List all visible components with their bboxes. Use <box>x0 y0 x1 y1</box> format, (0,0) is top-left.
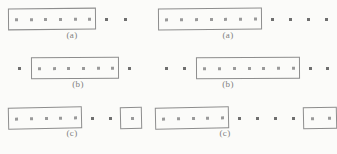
dot-marker <box>52 67 55 70</box>
panel-caption-right-c: (c) <box>195 128 255 138</box>
dot-marker-ungrouped <box>292 117 295 120</box>
dot-marker-ungrouped <box>91 117 94 120</box>
dot-marker-ungrouped <box>307 18 310 21</box>
dot-marker <box>239 17 242 20</box>
panel-caption-right-b: (b) <box>198 79 258 89</box>
dot-marker-ungrouped <box>256 117 259 120</box>
dot-marker <box>292 66 295 69</box>
dot-group-box <box>155 106 229 130</box>
panel-caption-right-a: (a) <box>198 30 258 40</box>
dot-group-box <box>158 8 262 31</box>
panel-caption-left-c: (c) <box>42 128 102 138</box>
dot-group-box <box>303 107 337 130</box>
dot-marker <box>67 67 70 70</box>
dot-marker <box>165 18 168 21</box>
dot-marker <box>262 66 265 69</box>
dot-marker <box>180 18 183 21</box>
dot-marker <box>44 18 47 21</box>
dot-marker-ungrouped <box>325 18 328 21</box>
dot-marker <box>224 17 227 20</box>
dot-marker <box>162 117 165 120</box>
dot-marker <box>96 66 99 69</box>
dot-marker <box>15 18 18 21</box>
dot-marker-ungrouped <box>183 67 186 70</box>
dot-group-box <box>8 8 96 31</box>
panel-caption-left-a: (a) <box>42 30 102 40</box>
panel-caption-left-b: (b) <box>48 79 108 89</box>
dot-group-box <box>8 106 82 130</box>
dot-marker <box>38 67 41 70</box>
dot-marker-ungrouped <box>326 67 329 70</box>
dot-marker <box>206 116 209 119</box>
dot-marker-ungrouped <box>105 18 108 21</box>
dot-marker <box>29 18 32 21</box>
dot-marker <box>221 116 224 119</box>
dot-marker <box>130 116 133 119</box>
dot-marker <box>82 66 85 69</box>
dot-marker <box>218 67 221 70</box>
dot-marker-ungrouped <box>165 67 168 70</box>
dot-marker-ungrouped <box>238 117 241 120</box>
dot-marker-ungrouped <box>271 18 274 21</box>
dot-marker-ungrouped <box>18 67 21 70</box>
dot-marker <box>30 117 33 120</box>
dot-group-box <box>196 57 300 80</box>
dot-marker <box>177 117 180 120</box>
dot-marker <box>311 117 314 120</box>
dot-marker <box>254 17 257 20</box>
dot-marker-ungrouped <box>109 117 112 120</box>
dot-marker <box>233 67 236 70</box>
dot-marker <box>209 17 212 20</box>
dot-marker <box>247 66 250 69</box>
dot-group-box <box>120 107 142 129</box>
dot-marker <box>73 17 76 20</box>
dot-marker-ungrouped <box>289 18 292 21</box>
dot-marker <box>328 116 331 119</box>
dot-group-box <box>31 57 119 80</box>
dot-marker <box>191 116 194 119</box>
dot-marker-ungrouped <box>309 67 312 70</box>
dot-marker <box>277 66 280 69</box>
dot-marker <box>195 18 198 21</box>
dot-marker <box>88 17 91 20</box>
dot-marker <box>15 117 18 120</box>
dot-marker <box>59 17 62 20</box>
dot-marker <box>74 116 77 119</box>
dot-marker-ungrouped <box>128 67 131 70</box>
dot-marker <box>44 116 47 119</box>
dot-marker-ungrouped <box>274 117 277 120</box>
dot-marker-ungrouped <box>124 18 127 21</box>
dot-marker <box>111 66 114 69</box>
dot-marker <box>59 116 62 119</box>
dot-marker <box>203 67 206 70</box>
